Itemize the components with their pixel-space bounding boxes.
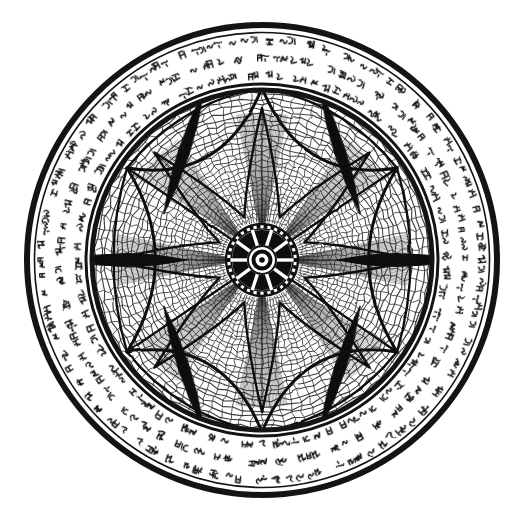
artwork-canvas: Circular Mandala with Script Border A sy… bbox=[0, 0, 527, 520]
mandala-drawing bbox=[0, 0, 527, 520]
center-wheel-hub bbox=[226, 224, 298, 296]
